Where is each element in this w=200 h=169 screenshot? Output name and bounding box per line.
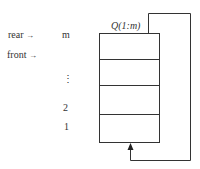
wraparound-loop	[131, 14, 191, 161]
rear-pointer: rear →	[8, 30, 34, 41]
right-arrow-icon: →	[29, 51, 37, 60]
index-1: 1	[64, 122, 69, 132]
index-ellipsis: ⋮	[63, 74, 73, 84]
rear-label: rear	[8, 29, 24, 40]
arrowhead-icon	[128, 143, 134, 150]
index-m: m	[62, 30, 70, 40]
index-2: 2	[63, 103, 68, 113]
queue-title: Q(1:m)	[111, 21, 140, 31]
queue-diagram	[0, 0, 200, 169]
right-arrow-icon: →	[26, 31, 34, 40]
queue-box	[100, 34, 160, 143]
front-label: front	[7, 49, 26, 60]
front-pointer: front →	[7, 50, 37, 61]
queue-title-text: Q(1:m)	[111, 20, 140, 31]
